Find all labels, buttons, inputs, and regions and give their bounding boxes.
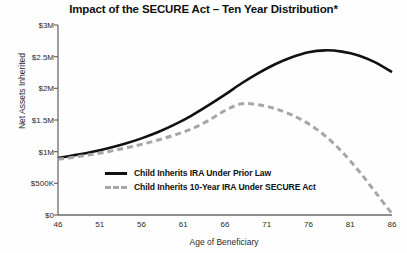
series-line bbox=[58, 50, 392, 158]
legend-item-secure-act: Child Inherits 10-Year IRA Under SECURE … bbox=[105, 180, 365, 194]
series-line bbox=[58, 103, 392, 213]
chart-figure: Impact of the SECURE Act – Ten Year Dist… bbox=[0, 0, 407, 253]
legend-item-prior-law: Child Inherits IRA Under Prior Law bbox=[105, 166, 365, 180]
legend-swatch-dashed-line-icon bbox=[105, 182, 127, 193]
legend-label-secure-act: Child Inherits 10-Year IRA Under SECURE … bbox=[134, 182, 316, 192]
x-axis-tick-label: 71 bbox=[252, 220, 282, 229]
x-axis-tick-label: 81 bbox=[335, 220, 365, 229]
x-axis-tick-label: 46 bbox=[43, 220, 73, 229]
x-axis-label: Age of Beneficiary bbox=[58, 237, 390, 247]
x-axis-tick-label: 86 bbox=[377, 220, 407, 229]
legend-swatch-solid-line-icon bbox=[105, 168, 127, 179]
x-axis-tick-label: 66 bbox=[210, 220, 240, 229]
x-axis-tick-label: 61 bbox=[168, 220, 198, 229]
x-axis-tick-label: 51 bbox=[85, 220, 115, 229]
chart-legend: Child Inherits IRA Under Prior Law Child… bbox=[105, 166, 365, 194]
legend-label-prior-law: Child Inherits IRA Under Prior Law bbox=[134, 168, 271, 178]
x-axis-tick-label: 56 bbox=[127, 220, 157, 229]
plot-area bbox=[0, 0, 407, 253]
x-axis-tick-label: 76 bbox=[294, 220, 324, 229]
